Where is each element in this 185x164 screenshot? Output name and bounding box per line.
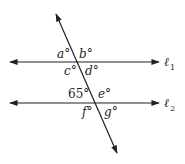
diagram-svg: ℓ 1 ℓ 2 a° b° c° d° 65° e° f° g° (0, 0, 185, 164)
angle-a: a° (57, 47, 70, 61)
parallel-lines-diagram: ℓ 1 ℓ 2 a° b° c° d° 65° e° f° g° (0, 0, 185, 164)
angle-e: e° (98, 87, 111, 101)
label-l2-subscript: 2 (170, 104, 175, 113)
transversal-line (56, 14, 117, 153)
angle-g: g° (104, 105, 118, 119)
angle-b: b° (79, 47, 93, 61)
label-l1: ℓ (164, 55, 169, 69)
angle-c: c° (64, 64, 77, 78)
label-l2: ℓ (164, 96, 169, 110)
angle-d: d° (85, 64, 99, 78)
angle-65: 65° (68, 87, 89, 101)
label-l1-subscript: 1 (170, 63, 175, 72)
angle-f: f° (81, 105, 92, 119)
